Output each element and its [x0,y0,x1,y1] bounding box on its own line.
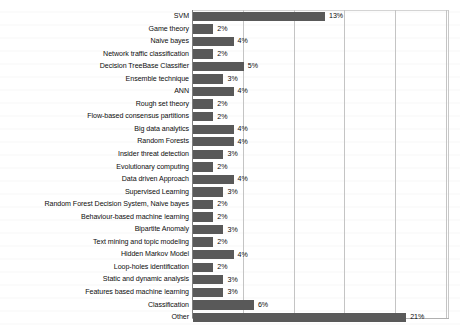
chart-row: Naive bayes4% [0,35,460,48]
bar-container: 3% [193,150,223,159]
bar-container: 2% [193,237,213,246]
chart-row: Data driven Approach4% [0,173,460,186]
bar-container: 6% [193,300,254,309]
category-label: Game theory [0,23,189,36]
bar-value-label: 3% [223,186,237,198]
bar-value-label: 2% [213,261,227,273]
bar-container: 4% [193,37,234,46]
bar-value-label: 3% [223,148,237,160]
chart-row: Decision TreeBase Classifier5% [0,60,460,73]
bar-value-label: 6% [254,299,268,311]
bar [193,99,213,108]
bar [193,250,234,259]
bar-value-label: 2% [213,23,227,35]
bar [193,200,213,209]
bar-container: 2% [193,263,213,272]
category-label: ANN [0,85,189,98]
category-label: Classification [0,299,189,312]
chart-row: Random Forests4% [0,135,460,148]
bar-value-label: 3% [223,224,237,236]
chart-row: Big data analytics4% [0,123,460,136]
bar-value-label: 3% [223,274,237,286]
category-label: Naive bayes [0,35,189,48]
bar [193,150,223,159]
chart-row: Bipartite Anomaly3% [0,223,460,236]
category-label: Random Forests [0,135,189,148]
bar-value-label: 4% [234,173,248,185]
chart-row: Loop-holes identification2% [0,261,460,274]
chart-row: Supervised Learning3% [0,186,460,199]
bar-rows: SVM13%Game theory2%Naive bayes4%Network … [0,10,460,324]
chart-row: Classification6% [0,299,460,312]
bar-value-label: 2% [213,236,227,248]
bar [193,288,223,297]
bar [193,300,254,309]
chart-row: Network traffic classification2% [0,48,460,61]
bar-container: 2% [193,24,213,33]
bar [193,237,213,246]
bar-container: 3% [193,275,223,284]
category-label: SVM [0,10,189,23]
bar-value-label: 4% [234,249,248,261]
bar-container: 2% [193,112,213,121]
category-label: Behaviour-based machine learning [0,211,189,224]
bar [193,125,234,134]
bar-value-label: 5% [244,60,258,72]
category-label: Random Forest Decision System, Naive bay… [0,198,189,211]
chart-row: Features based machine learning3% [0,286,460,299]
bar-container: 2% [193,162,213,171]
chart-row: Rough set theory2% [0,98,460,111]
bar [193,263,213,272]
category-label: Static and dynamic analysis [0,273,189,286]
bar-value-label: 2% [213,98,227,110]
bar [193,175,234,184]
bar-container: 5% [193,62,244,71]
bar-value-label: 2% [213,211,227,223]
bar-container: 13% [193,12,325,21]
category-label: Other [0,311,189,324]
bar-container: 2% [193,200,213,209]
category-label: Loop-holes identification [0,261,189,274]
bar [193,225,223,234]
category-label: Supervised Learning [0,186,189,199]
bar-container: 4% [193,87,234,96]
chart-row: ANN4% [0,85,460,98]
bar-value-label: 2% [213,198,227,210]
chart-row: Behaviour-based machine learning2% [0,211,460,224]
category-label: Features based machine learning [0,286,189,299]
chart-row: Evolutionary computing2% [0,161,460,174]
bar-value-label: 2% [213,111,227,123]
bar [193,12,325,21]
bar-value-label: 2% [213,161,227,173]
bar-chart: SVM13%Game theory2%Naive bayes4%Network … [0,0,460,329]
bar-value-label: 4% [234,136,248,148]
bar [193,37,234,46]
category-label: Data driven Approach [0,173,189,186]
chart-row: Other21% [0,311,460,324]
bar [193,313,406,322]
chart-row: Flow-based consensus partitions2% [0,110,460,123]
bar-container: 3% [193,225,223,234]
chart-row: Hidden Markov Model4% [0,248,460,261]
bar-value-label: 3% [223,286,237,298]
bar-container: 4% [193,125,234,134]
bar [193,87,234,96]
chart-row: Ensemble technique3% [0,73,460,86]
bar-container: 4% [193,137,234,146]
bar-container: 3% [193,288,223,297]
bar-container: 3% [193,74,223,83]
bar [193,112,213,121]
chart-row: Insider threat detection3% [0,148,460,161]
category-label: Flow-based consensus partitions [0,110,189,123]
bar [193,275,223,284]
bar-container: 4% [193,175,234,184]
bar-value-label: 2% [213,48,227,60]
bar-container: 4% [193,250,234,259]
bar-value-label: 4% [234,35,248,47]
category-label: Network traffic classification [0,48,189,61]
bar [193,62,244,71]
chart-row: Random Forest Decision System, Naive bay… [0,198,460,211]
bar [193,187,223,196]
bar [193,49,213,58]
category-label: Rough set theory [0,98,189,111]
